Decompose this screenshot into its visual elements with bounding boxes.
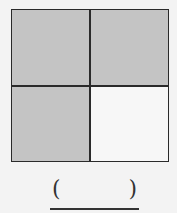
fraction-figure: ( ) (0, 0, 177, 213)
answer-underline (50, 208, 139, 210)
grid-cell-top-left (12, 10, 90, 86)
open-paren: ( (52, 176, 61, 201)
square-grid (11, 9, 169, 162)
close-paren: ) (128, 176, 137, 201)
answer-parentheses: ( ) (50, 178, 139, 208)
answer-blank[interactable] (70, 182, 119, 204)
grid-cell-bottom-right (90, 86, 168, 162)
grid-cell-top-right (90, 10, 168, 86)
grid-cell-bottom-left (12, 86, 90, 162)
